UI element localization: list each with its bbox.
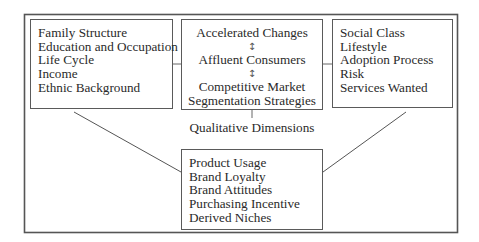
- dimension-purchasing-incentive: Purchasing Incentive: [189, 197, 322, 211]
- concept-segmentation-strategies: Segmentation Strategies: [182, 94, 322, 108]
- factor-adoption-process: Adoption Process: [340, 53, 452, 67]
- segmentation-diagram: Family Structure Education and Occupatio…: [0, 0, 479, 242]
- central-concept-box: Accelerated Changes ↕ Affluent Consumers…: [181, 19, 323, 110]
- factor-income: Income: [38, 67, 172, 81]
- factor-social-class: Social Class: [340, 26, 452, 40]
- qualitative-dimensions-label: Qualitative Dimensions: [181, 120, 323, 136]
- factor-family-structure: Family Structure: [38, 26, 172, 40]
- factor-risk: Risk: [340, 67, 452, 81]
- factor-education-occupation: Education and Occupation: [38, 40, 172, 54]
- demographic-factors-box: Family Structure Education and Occupatio…: [30, 19, 173, 109]
- connector-left-bottom: [74, 112, 181, 172]
- factor-services-wanted: Services Wanted: [340, 81, 452, 95]
- factor-lifestyle: Lifestyle: [340, 40, 452, 54]
- connector-right-bottom: [323, 112, 406, 172]
- factor-life-cycle: Life Cycle: [38, 53, 172, 67]
- concept-affluent-consumers: Affluent Consumers: [182, 53, 322, 67]
- qualitative-dimensions-box: Product Usage Brand Loyalty Brand Attitu…: [181, 149, 323, 230]
- dimension-product-usage: Product Usage: [189, 156, 322, 170]
- psychographic-factors-box: Social Class Lifestyle Adoption Process …: [332, 19, 453, 108]
- dimension-brand-loyalty: Brand Loyalty: [189, 170, 322, 184]
- dimension-derived-niches: Derived Niches: [189, 211, 322, 225]
- concept-accelerated-changes: Accelerated Changes: [182, 26, 322, 40]
- dimension-brand-attitudes: Brand Attitudes: [189, 183, 322, 197]
- factor-ethnic-background: Ethnic Background: [38, 81, 172, 95]
- concept-competitive-market: Competitive Market: [182, 80, 322, 94]
